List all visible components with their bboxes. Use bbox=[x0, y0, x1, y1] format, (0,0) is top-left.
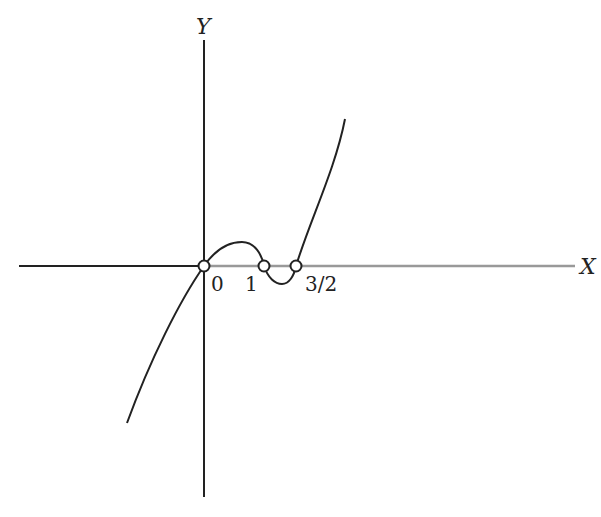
point-x-3-2 bbox=[291, 261, 302, 272]
tick-label-1: 1 bbox=[245, 272, 258, 296]
x-axis-label: X bbox=[578, 254, 597, 279]
point-x-1 bbox=[259, 261, 270, 272]
tick-label-3-2: 3/2 bbox=[305, 272, 337, 296]
function-curve bbox=[127, 119, 345, 423]
point-origin bbox=[199, 261, 210, 272]
y-axis-label: Y bbox=[196, 14, 213, 39]
function-graph: Y X 0 1 3/2 bbox=[0, 0, 601, 517]
tick-label-0: 0 bbox=[211, 272, 224, 296]
